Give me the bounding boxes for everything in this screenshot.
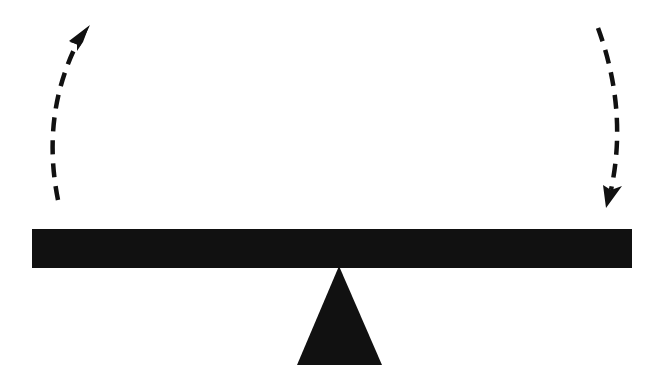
seesaw-diagram: [0, 0, 660, 385]
right-curved-arrow-down: [598, 28, 617, 190]
fulcrum-triangle: [297, 266, 382, 365]
left-arrowhead-fill: [69, 25, 90, 46]
seesaw-beam: [32, 229, 632, 268]
left-curved-arrow-up: [53, 34, 82, 200]
